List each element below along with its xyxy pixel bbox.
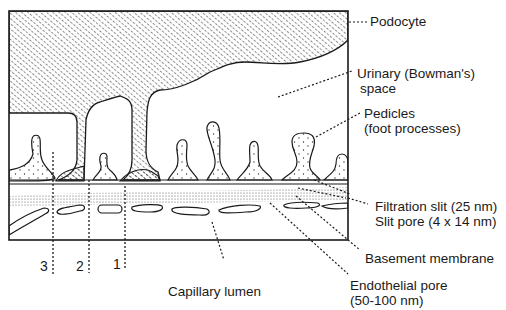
- label-pedicles-line1: Pedicles: [364, 106, 415, 122]
- pathway-marker-3: 3: [40, 258, 48, 274]
- label-basement-membrane: Basement membrane: [365, 251, 494, 267]
- label-capillary-lumen: Capillary lumen: [168, 284, 261, 300]
- label-podocyte: Podocyte: [370, 14, 426, 30]
- label-slit-pore: Slit pore (4 x 14 nm): [375, 214, 497, 230]
- label-endothelial-pore-line1: Endothelial pore: [350, 278, 448, 294]
- label-endothelial-pore-line2: (50-100 nm): [350, 293, 424, 309]
- process-base-left: [56, 166, 84, 181]
- label-filtration-slit: Filtration slit (25 nm): [375, 199, 497, 215]
- label-urinary-space-line2: space: [360, 81, 396, 97]
- pathway-marker-2: 2: [76, 258, 84, 274]
- label-urinary-space-line1: Urinary (Bowman's): [357, 66, 475, 82]
- endothelium-segments: [9, 202, 348, 235]
- pathway-marker-1: 1: [113, 256, 121, 272]
- label-pedicles-line2: (foot processes): [364, 121, 461, 137]
- pedicles: [9, 122, 348, 181]
